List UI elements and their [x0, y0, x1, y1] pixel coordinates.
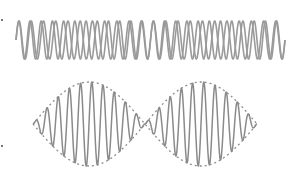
beat-wave-diagram	[0, 0, 298, 180]
edge-mark	[1, 19, 3, 21]
bottom-beat-wave	[33, 82, 257, 166]
top-component-waves	[16, 21, 285, 59]
edge-mark	[1, 145, 3, 147]
component-wave-2	[16, 21, 285, 59]
resultant-beat-wave	[33, 82, 257, 166]
